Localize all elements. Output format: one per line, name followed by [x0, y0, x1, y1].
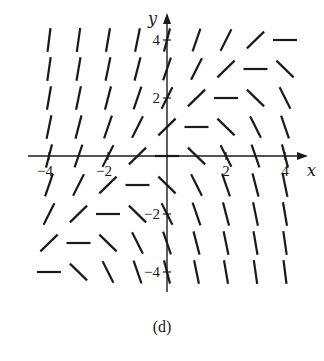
y-tick-label: −2 — [144, 206, 160, 222]
slope-segment — [194, 231, 200, 254]
slope-segment — [254, 231, 258, 255]
slope-segment — [194, 260, 199, 284]
axes — [28, 13, 308, 292]
slope-segment — [193, 29, 201, 52]
slope-segment — [283, 231, 286, 255]
slope-segment — [47, 115, 52, 139]
slope-segment — [132, 232, 143, 253]
slope-segment — [221, 29, 232, 50]
slope-segment — [191, 58, 202, 79]
x-tick-label: 2 — [222, 163, 230, 179]
y-tick-label: −4 — [144, 264, 160, 280]
slope-segment — [284, 260, 287, 284]
x-tick-label: 4 — [281, 163, 289, 179]
slope-segment — [223, 202, 229, 225]
x-axis-arrow-icon — [297, 152, 308, 160]
slope-segment — [188, 90, 205, 107]
slope-segment — [283, 202, 287, 226]
slope-segment — [106, 28, 110, 52]
slope-segment — [76, 115, 82, 138]
y-tick-label: 2 — [153, 90, 161, 106]
slope-segment — [254, 260, 257, 284]
x-tick-label: −4 — [37, 163, 53, 179]
slope-segment — [103, 261, 114, 282]
slope-segment — [73, 174, 84, 195]
slope-segment — [47, 57, 50, 81]
slope-segment — [48, 28, 51, 52]
slope-segment — [276, 61, 293, 78]
slope-segment — [105, 86, 111, 109]
slope-segment — [224, 231, 229, 255]
y-tick-label: 4 — [153, 32, 161, 48]
slope-segment — [217, 119, 234, 136]
slope-segment — [77, 28, 80, 52]
slope-segment — [70, 264, 87, 281]
slope-segment — [253, 173, 259, 196]
slope-segment — [134, 261, 142, 284]
slope-segment — [99, 177, 116, 194]
figure-caption: (d) — [0, 318, 324, 336]
slope-segment — [247, 32, 264, 49]
slope-segment — [104, 116, 112, 139]
slope-segment — [250, 116, 261, 137]
slope-segment — [70, 206, 87, 223]
slope-field-plot: x y −4−22442−2−4 — [0, 0, 324, 361]
slope-segment — [217, 61, 234, 78]
slope-segment — [44, 203, 55, 224]
slope-segment — [224, 260, 228, 284]
slope-segment — [40, 235, 57, 252]
slope-segment — [193, 203, 201, 226]
slope-segment — [281, 116, 289, 139]
slope-segment — [76, 86, 81, 110]
slope-segment — [47, 86, 51, 110]
slope-segment — [132, 116, 143, 137]
slope-segment — [247, 90, 264, 107]
slope-field-figure: x y −4−22442−2−4 (d) — [0, 0, 324, 361]
slope-segment — [77, 57, 81, 81]
x-axis-label: x — [307, 161, 316, 180]
slope-segment — [99, 235, 116, 252]
slope-segment — [191, 174, 202, 195]
x-tick-label: −2 — [96, 163, 112, 179]
slope-segment — [135, 28, 140, 52]
slope-segment — [135, 57, 141, 80]
y-axis-label: y — [147, 9, 158, 28]
slope-segment — [253, 202, 258, 226]
slope-segment — [106, 57, 111, 81]
slope-segment — [280, 87, 291, 108]
slope-segment — [134, 87, 142, 110]
y-axis-arrow-icon — [163, 13, 171, 24]
